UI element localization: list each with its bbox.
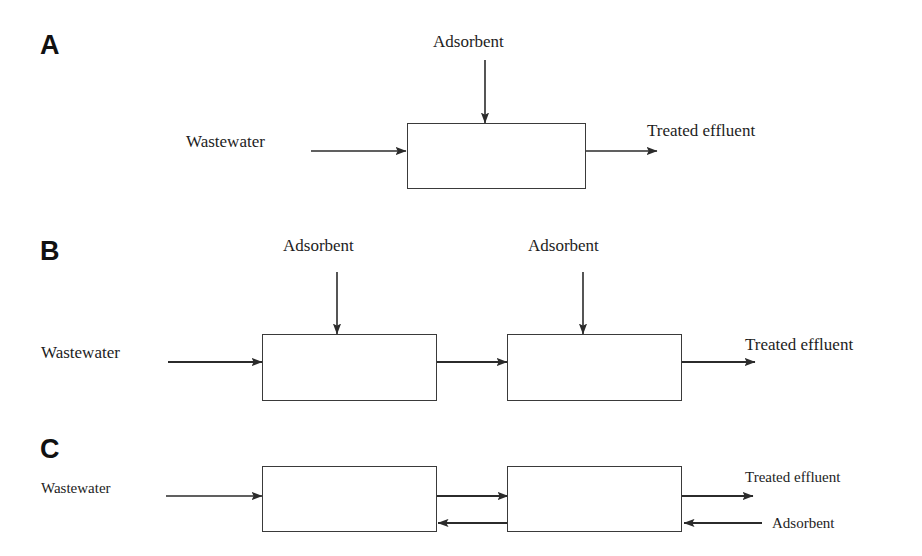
panel-b-treated-effluent-label: Treated effluent xyxy=(745,336,853,354)
panel-label-c: C xyxy=(40,436,60,463)
panel-a-adsorber-vessel xyxy=(407,123,586,189)
panel-c-adsorber-vessel-2 xyxy=(507,466,682,532)
panel-c-wastewater-label: Wastewater xyxy=(41,479,111,497)
panel-b-adsorbent-label-2: Adsorbent xyxy=(528,237,599,255)
panel-a-treated-effluent-label: Treated effluent xyxy=(647,122,755,140)
panel-c-adsorbent-label: Adsorbent xyxy=(772,514,835,532)
panel-a-adsorbent-label: Adsorbent xyxy=(433,33,504,51)
panel-b-wastewater-label: Wastewater xyxy=(41,344,120,362)
panel-label-a: A xyxy=(40,32,60,59)
panel-b-adsorber-vessel-2 xyxy=(507,334,682,401)
panel-b-adsorber-vessel-1 xyxy=(262,334,437,401)
panel-label-b: B xyxy=(40,238,60,265)
panel-b-adsorbent-label-1: Adsorbent xyxy=(283,237,354,255)
panel-a-wastewater-label: Wastewater xyxy=(186,133,265,151)
panel-c-treated-effluent-label: Treated effluent xyxy=(745,468,840,486)
figure-canvas: A Adsorbent Wastewater Treated effluent … xyxy=(0,0,922,556)
panel-c-adsorber-vessel-1 xyxy=(262,466,437,532)
